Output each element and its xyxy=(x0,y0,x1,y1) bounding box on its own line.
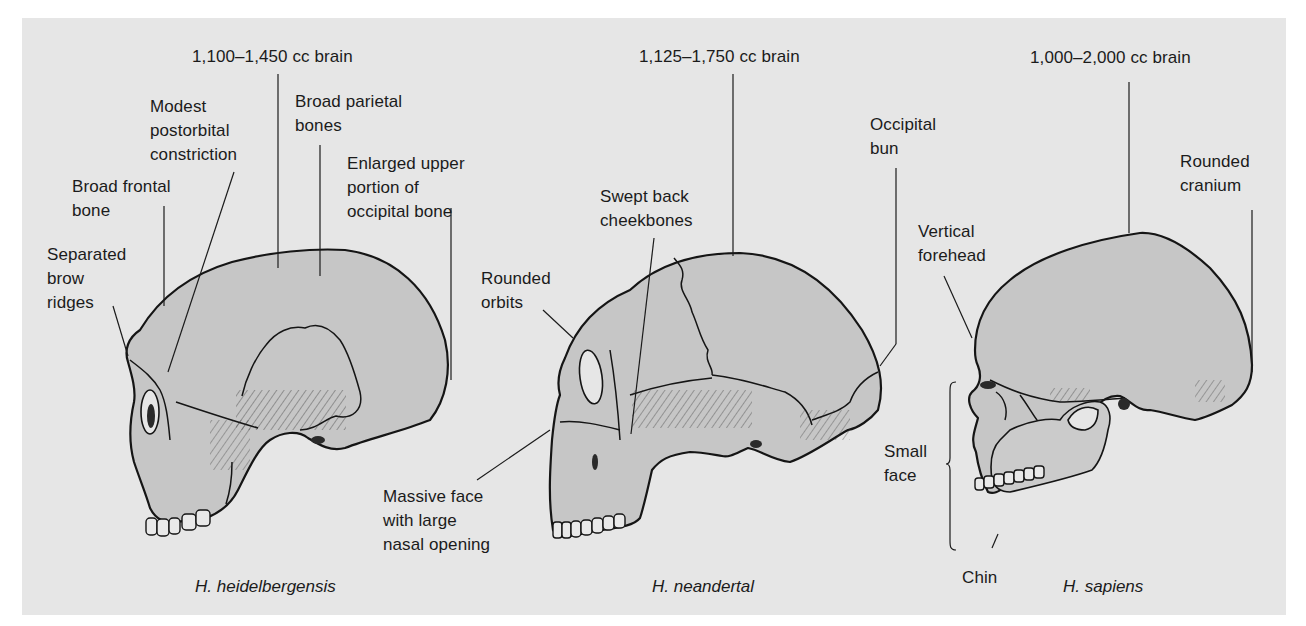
sapiens-brain-size-label: 1,000–2,000 cc brain xyxy=(1030,46,1191,70)
skull-illustrations xyxy=(0,0,1306,626)
heidelbergensis-caption: H. heidelbergensis xyxy=(195,577,336,597)
massive-face-label: Massive face with large nasal opening xyxy=(383,485,490,557)
separated-brow-ridges-label: Separated brow ridges xyxy=(47,243,126,315)
enlarged-occipital-label: Enlarged upper portion of occipital bone xyxy=(347,152,465,224)
rounded-cranium-label: Rounded cranium xyxy=(1180,150,1250,198)
neandertal-skull-drawing xyxy=(550,253,881,538)
neandertal-brain-size-label: 1,125–1,750 cc brain xyxy=(639,45,800,69)
occipital-bun-label: Occipital bun xyxy=(870,113,936,161)
small-face-label: Small face xyxy=(884,440,927,488)
broad-frontal-bone-label: Broad frontal bone xyxy=(72,175,171,223)
chin-label: Chin xyxy=(962,566,997,590)
postorbital-constriction-label: Modest postorbital constriction xyxy=(150,95,237,167)
vertical-forehead-label: Vertical forehead xyxy=(918,220,986,268)
sapiens-caption: H. sapiens xyxy=(1063,577,1143,597)
broad-parietal-bones-label: Broad parietal bones xyxy=(295,90,402,138)
rounded-orbits-label: Rounded orbits xyxy=(481,267,551,315)
heidelbergensis-brain-size-label: 1,100–1,450 cc brain xyxy=(192,45,353,69)
sapiens-skull-drawing xyxy=(969,233,1252,493)
neandertal-caption: H. neandertal xyxy=(652,577,754,597)
swept-back-cheekbones-label: Swept back cheekbones xyxy=(600,185,693,233)
